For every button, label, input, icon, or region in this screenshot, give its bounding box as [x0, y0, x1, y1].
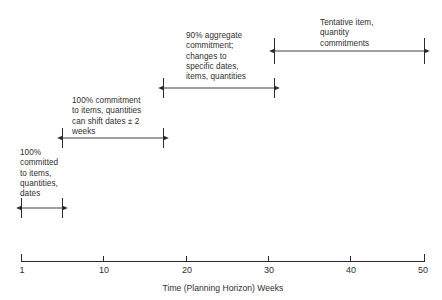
time-axis: [21, 254, 425, 262]
zone-committed-span: [22, 198, 63, 218]
axis-tick-label-1: 1: [19, 265, 24, 275]
planning-horizon-diagram: 100% committed to items, quantities, dat…: [0, 0, 442, 300]
axis-tick-label-10: 10: [99, 265, 109, 275]
zone-tentative-label: Tentative item, quantity commitments: [320, 18, 374, 49]
axis-tick-label-40: 40: [346, 265, 356, 275]
axis-tick-label-20: 20: [182, 265, 192, 275]
axis-title: Time (Planning Horizon) Weeks: [163, 283, 284, 293]
zone-committed-label: 100% committed to items, quantities, dat…: [20, 148, 58, 199]
zone-firm-label: 100% commitment to items, quantities can…: [72, 96, 141, 137]
axis-tick-label-30: 30: [264, 265, 274, 275]
zone-aggregate-label: 90% aggregate commitment; changes to spe…: [186, 31, 246, 82]
axis-tick-label-50: 50: [418, 265, 428, 275]
